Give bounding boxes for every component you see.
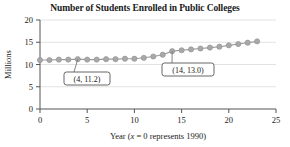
y-tick-label: 20 xyxy=(25,15,34,25)
annotation-group: (4, 11.2)(14, 13.0) xyxy=(64,51,214,85)
x-tick-label: 10 xyxy=(130,115,139,125)
data-point xyxy=(66,57,71,62)
y-tick-label: 0 xyxy=(29,104,33,114)
trend-line xyxy=(40,41,257,60)
x-tick-label: 25 xyxy=(272,115,281,125)
data-point xyxy=(132,56,137,61)
data-point xyxy=(255,39,260,44)
data-point xyxy=(236,41,241,46)
data-point xyxy=(188,47,193,52)
data-point xyxy=(94,57,99,62)
y-axis-ticks: 05101520 xyxy=(25,15,41,114)
y-tick-label: 5 xyxy=(29,82,33,92)
data-point xyxy=(37,57,42,62)
data-point xyxy=(103,57,108,62)
x-tick-label: 0 xyxy=(38,115,42,125)
data-point xyxy=(56,57,61,62)
y-tick-label: 15 xyxy=(25,37,34,47)
data-point xyxy=(85,57,90,62)
data-point xyxy=(207,45,212,50)
y-tick-label: 10 xyxy=(25,60,34,70)
x-tick-label: 5 xyxy=(85,115,89,125)
data-point xyxy=(141,55,146,60)
data-point xyxy=(245,40,250,45)
x-axis-ticks: 0510152025 xyxy=(38,109,280,125)
annotation-label: (14, 13.0) xyxy=(172,66,204,75)
data-point xyxy=(113,57,118,62)
data-point xyxy=(160,52,165,57)
data-point xyxy=(179,48,184,53)
annotation-label: (4, 11.2) xyxy=(73,75,100,84)
y-axis-title: Millions xyxy=(3,50,13,79)
x-tick-label: 20 xyxy=(225,115,234,125)
chart-figure: Number of Students Enrolled in Public Co… xyxy=(0,0,290,147)
data-point xyxy=(198,46,203,51)
data-point xyxy=(226,43,231,48)
x-tick-label: 15 xyxy=(177,115,186,125)
data-point xyxy=(122,56,127,61)
data-point xyxy=(47,57,52,62)
x-axis-title: Year (x = 0 represents 1990) xyxy=(110,131,206,141)
chart-plot-area: 0510152025 05101520 (4, 11.2)(14, 13.0) … xyxy=(0,0,290,147)
data-point xyxy=(151,54,156,59)
trend-line-path xyxy=(40,41,257,60)
data-point xyxy=(217,44,222,49)
